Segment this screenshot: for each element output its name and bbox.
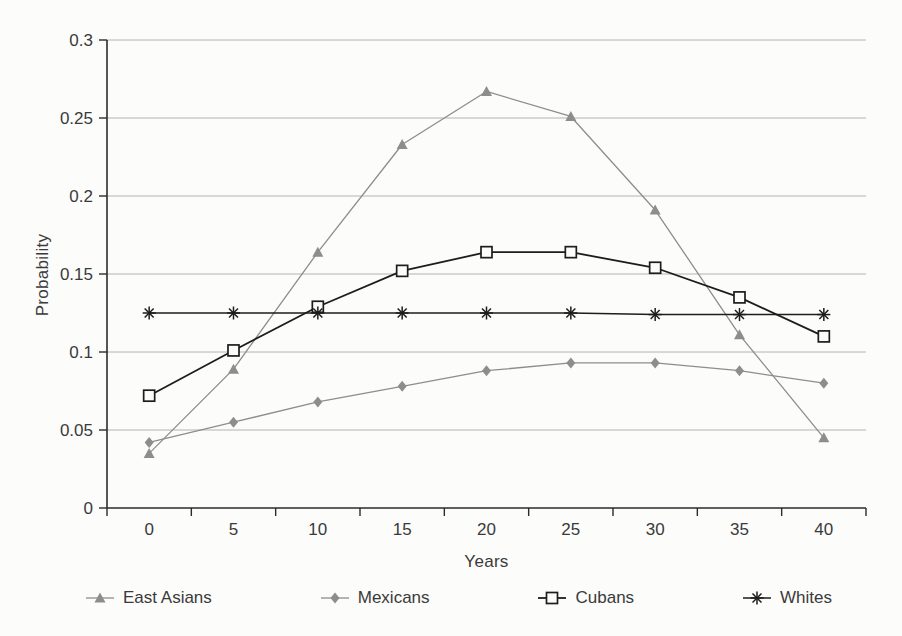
triangle-marker <box>228 364 239 374</box>
diamond-marker <box>735 365 744 376</box>
legend-item-mexicans: Mexicans <box>319 588 430 608</box>
legend-label: East Asians <box>123 588 212 608</box>
legend-item-whites: Whites <box>741 588 832 608</box>
asterisk-icon <box>741 590 773 606</box>
diamond-icon <box>319 590 351 606</box>
asterisk-marker <box>564 307 577 320</box>
open-square-marker <box>144 390 155 401</box>
open-square-marker <box>650 262 661 273</box>
asterisk-marker <box>227 307 240 320</box>
diamond-marker <box>145 437 154 448</box>
asterisk-marker <box>751 592 764 605</box>
diamond-marker <box>566 357 575 368</box>
asterisk-marker <box>817 308 830 321</box>
x-axis-title: Years <box>107 552 866 572</box>
open-square-icon <box>536 590 568 606</box>
open-square-marker <box>547 593 558 604</box>
triangle-marker <box>734 329 745 339</box>
open-square-marker <box>228 345 239 356</box>
diamond-marker <box>398 381 407 392</box>
diamond-marker <box>229 417 238 428</box>
chart-legend: East AsiansMexicansCubansWhites <box>84 588 832 608</box>
asterisk-marker <box>649 308 662 321</box>
x-tick-label: 0 <box>144 520 153 539</box>
y-tick-label: 0.3 <box>69 31 93 50</box>
diamond-marker <box>482 365 491 376</box>
y-tick-label: 0.25 <box>60 109 93 128</box>
legend-label: Mexicans <box>358 588 430 608</box>
x-tick-label: 10 <box>308 520 327 539</box>
asterisk-marker <box>396 307 409 320</box>
series-line-east-asians <box>149 91 824 453</box>
legend-item-east-asians: East Asians <box>84 588 212 608</box>
asterisk-marker <box>480 307 493 320</box>
y-tick-label: 0.1 <box>69 343 93 362</box>
diamond-marker <box>313 396 322 407</box>
legend-label: Whites <box>780 588 832 608</box>
open-square-marker <box>734 292 745 303</box>
x-tick-label: 35 <box>730 520 749 539</box>
x-tick-label: 15 <box>393 520 412 539</box>
x-tick-label: 30 <box>646 520 665 539</box>
chart-canvas: 00.050.10.150.20.250.30510152025303540 <box>0 0 902 636</box>
y-tick-label: 0.05 <box>60 421 93 440</box>
asterisk-marker <box>733 308 746 321</box>
triangle-marker <box>397 139 408 149</box>
open-square-marker <box>397 265 408 276</box>
x-tick-label: 20 <box>477 520 496 539</box>
open-square-marker <box>565 247 576 258</box>
triangle-marker <box>481 86 492 96</box>
x-tick-label: 40 <box>814 520 833 539</box>
x-tick-label: 25 <box>561 520 580 539</box>
probability-line-chart: 00.050.10.150.20.250.30510152025303540 P… <box>0 0 902 636</box>
open-square-marker <box>818 331 829 342</box>
y-tick-label: 0.15 <box>60 265 93 284</box>
legend-label: Cubans <box>575 588 634 608</box>
y-tick-label: 0 <box>84 499 93 518</box>
diamond-marker <box>819 378 828 389</box>
y-tick-label: 0.2 <box>69 187 93 206</box>
open-square-marker <box>481 247 492 258</box>
diamond-marker <box>651 357 660 368</box>
asterisk-marker <box>143 307 156 320</box>
x-tick-label: 5 <box>229 520 238 539</box>
diamond-marker <box>330 593 339 604</box>
legend-item-cubans: Cubans <box>536 588 634 608</box>
y-axis-title: Probability <box>33 210 53 340</box>
triangle-icon <box>84 590 116 606</box>
